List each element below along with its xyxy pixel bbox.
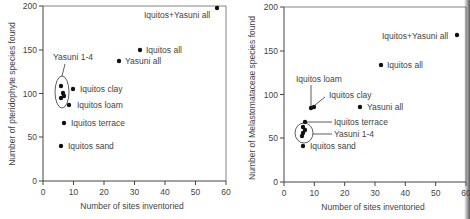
y-tick-label: 100 — [264, 90, 278, 100]
y-tick-label: 150 — [264, 46, 278, 56]
melastomataceae-chart: 0 50 100 150 200 0 10 20 30 40 50 60 Num… — [235, 0, 470, 219]
y-axis: 0 50 100 150 200 — [23, 1, 43, 186]
y-tick-label: 50 — [269, 133, 279, 143]
x-tick-label: 10 — [310, 188, 320, 198]
plot-frame — [43, 6, 226, 181]
x-tick-label: 30 — [370, 188, 380, 198]
scan-edge-shadow — [464, 0, 470, 219]
point-iquitos-yasuni-all — [455, 33, 459, 37]
point-iquitos-loam — [309, 106, 313, 110]
y-tick-label: 0 — [32, 176, 37, 186]
point-yasuni-all — [358, 105, 362, 109]
label-iquitos-yasuni-all: Iquitos+Yasuni all — [144, 10, 210, 20]
point-iquitos-clay — [71, 87, 75, 91]
label-iquitos-loam: Iquitos loam — [296, 74, 342, 84]
annotations: Iquitos+Yasuni all Iquitos all Yasuni al… — [53, 10, 210, 151]
label-iquitos-yasuni-all: Iquitos+Yasuni all — [382, 31, 448, 41]
x-axis: 0 10 20 30 40 50 60 — [41, 181, 231, 197]
point-iquitos-sand — [301, 144, 305, 148]
point-iquitos-all — [138, 48, 142, 52]
point-yasuni-all — [117, 59, 121, 63]
x-tick-label: 60 — [221, 187, 231, 197]
point-yasuni-4 — [300, 134, 304, 138]
x-tick-label: 50 — [431, 188, 441, 198]
point-iquitos-sand — [59, 144, 63, 148]
label-yasuni-all: Yasuni all — [367, 102, 403, 112]
x-axis-title: Number of sites inventoried — [80, 201, 184, 211]
y-tick-label: 100 — [23, 89, 37, 99]
y-tick-label: 200 — [23, 1, 37, 11]
label-iquitos-terrace: Iquitos terrace — [334, 117, 388, 127]
x-tick-label: 20 — [340, 188, 350, 198]
x-axis-title: Number of sites inventoried — [321, 202, 425, 212]
label-yasuni-1-4: Yasuni 1-4 — [53, 52, 93, 62]
point-yasuni-1 — [59, 84, 63, 88]
data-points — [300, 33, 459, 148]
point-iquitos-loam — [67, 103, 71, 107]
y-axis: 0 50 100 150 200 — [264, 2, 284, 187]
y-tick-label: 200 — [264, 2, 278, 12]
x-tick-label: 50 — [191, 187, 201, 197]
point-iquitos-all — [379, 63, 383, 67]
leader-line — [62, 64, 65, 76]
label-iquitos-clay: Iquitos clay — [329, 90, 372, 100]
y-axis-title: Number of pteridophyte species found — [7, 22, 17, 166]
x-tick-label: 40 — [401, 188, 411, 198]
label-iquitos-loam: Iquitos loam — [77, 100, 123, 110]
x-tick-label: 0 — [41, 187, 46, 197]
annotations: Iquitos+Yasuni all Iquitos all Iquitos l… — [296, 31, 448, 151]
label-yasuni-1-4: Yasuni 1-4 — [334, 129, 374, 139]
label-iquitos-all: Iquitos all — [146, 45, 182, 55]
x-tick-label: 10 — [69, 187, 79, 197]
y-tick-label: 50 — [28, 132, 38, 142]
y-axis-title: Number of Melastomataceae species found — [247, 16, 257, 180]
label-iquitos-all: Iquitos all — [387, 60, 423, 70]
x-tick-label: 40 — [160, 187, 170, 197]
label-iquitos-terrace: Iquitos terrace — [71, 118, 125, 128]
x-tick-label: 0 — [282, 188, 287, 198]
y-tick-label: 150 — [23, 45, 37, 55]
label-iquitos-sand: Iquitos sand — [68, 141, 114, 151]
label-yasuni-all: Yasuni all — [125, 56, 161, 66]
point-iquitos-terrace — [62, 121, 66, 125]
pteridophyte-chart: 0 50 100 150 200 0 10 20 30 40 50 60 Num… — [0, 0, 235, 219]
x-axis: 0 10 20 30 40 50 60 — [282, 182, 470, 198]
label-iquitos-sand: Iquitos sand — [310, 141, 356, 151]
point-yasuni-4 — [59, 96, 63, 100]
point-iquitos-yasuni-all — [215, 6, 219, 10]
x-tick-label: 30 — [130, 187, 140, 197]
y-tick-label: 0 — [273, 177, 278, 187]
label-iquitos-clay: Iquitos clay — [80, 84, 123, 94]
x-tick-label: 20 — [99, 187, 109, 197]
